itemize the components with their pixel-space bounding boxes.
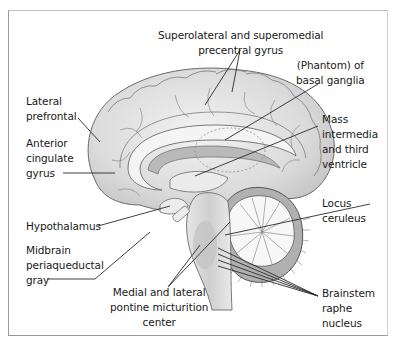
label-pontine-micturition-center: Medial and lateral pontine micturition c… — [110, 285, 208, 330]
label-precentral-gyrus: Superolateral and superomedial precentra… — [158, 28, 323, 58]
label-line: Midbrain — [26, 243, 104, 258]
label-locus-ceruleus: Locus ceruleus — [322, 196, 366, 226]
label-lateral-prefrontal: Lateral prefrontal — [26, 94, 77, 124]
label-line: Mass — [322, 112, 378, 127]
label-line: cingulate — [26, 151, 74, 166]
label-line: Medial and lateral — [110, 285, 208, 300]
label-midbrain-pag: Midbrain periaqueductal gray — [26, 243, 104, 288]
label-line: pontine micturition — [110, 300, 208, 315]
cerebellum — [222, 187, 310, 287]
label-anterior-cingulate-gyrus: Anterior cingulate gyrus — [26, 136, 74, 181]
label-line: and third — [322, 142, 378, 157]
label-hypothalamus: Hypothalamus — [26, 219, 101, 234]
label-line: gray — [26, 273, 104, 288]
cerebrum — [88, 68, 334, 212]
label-line: raphe — [322, 301, 375, 316]
label-line: ventricle — [322, 157, 378, 172]
label-line: Lateral — [26, 94, 77, 109]
label-basal-ganglia: (Phantom) of basal ganglia — [296, 58, 365, 88]
label-line: periaqueductal — [26, 258, 104, 273]
label-line: Anterior — [26, 136, 74, 151]
label-line: intermedia — [322, 127, 378, 142]
label-line: (Phantom) of — [296, 58, 365, 73]
label-brainstem-raphe-nucleus: Brainstem raphe nucleus — [322, 286, 375, 331]
label-mass-intermedia: Mass intermedia and third ventricle — [322, 112, 378, 172]
label-line: basal ganglia — [296, 73, 365, 88]
label-line: Locus — [322, 196, 366, 211]
label-line: precentral gyrus — [158, 43, 323, 58]
label-line: nucleus — [322, 316, 375, 331]
label-line: Superolateral and superomedial — [158, 28, 323, 43]
label-line: gyrus — [26, 166, 74, 181]
label-line: Hypothalamus — [26, 219, 101, 234]
label-line: ceruleus — [322, 211, 366, 226]
label-line: Brainstem — [322, 286, 375, 301]
label-line: prefrontal — [26, 109, 77, 124]
label-line: center — [110, 315, 208, 330]
